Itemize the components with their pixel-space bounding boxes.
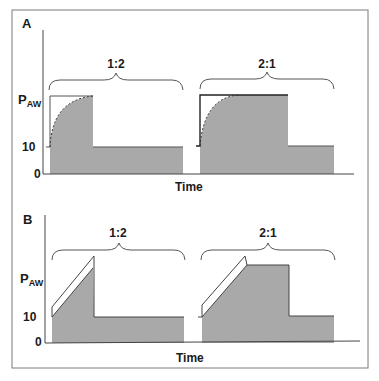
panel-a-cycle-2-ratio: 2:1	[258, 57, 276, 71]
panel-b-tick-0: 0	[35, 335, 42, 349]
panel-b-cycle-2-brace	[201, 243, 335, 260]
panel-b: B PAW 10 0 Time 1:2 2:1	[20, 212, 360, 365]
panel-a-tick-10: 10	[22, 140, 36, 154]
panel-b-cycle-2-fill	[202, 265, 334, 343]
panel-a-label: A	[22, 16, 32, 31]
panel-b-y-label: PAW	[20, 271, 44, 288]
panel-b-cycle-1-ratio: 1:2	[109, 226, 127, 240]
panel-a-cycle-2-fill	[200, 95, 334, 174]
panel-a-x-label: Time	[175, 180, 203, 194]
panel-b-x-label: Time	[176, 351, 204, 365]
panel-b-tick-10: 10	[23, 310, 37, 324]
panel-a-cycle-2-brace	[200, 72, 334, 89]
panel-a: A PAW 10 0 Time 1:2 2:1	[18, 16, 354, 194]
panel-b-cycle-1-fill	[52, 268, 184, 343]
panel-a-tick-0: 0	[34, 167, 41, 181]
panel-a-cycle-1-fill	[50, 96, 183, 174]
panel-b-cycle-2-ratio: 2:1	[259, 226, 277, 240]
panel-a-cycle-1-brace	[49, 73, 183, 90]
panel-a-cycle-1-ratio: 1:2	[107, 57, 125, 71]
figure: A PAW 10 0 Time 1:2 2:1 B	[0, 0, 379, 381]
panel-b-label: B	[23, 212, 32, 227]
panel-a-y-label: PAW	[18, 92, 42, 109]
panel-b-cycle-1-brace	[52, 243, 185, 260]
